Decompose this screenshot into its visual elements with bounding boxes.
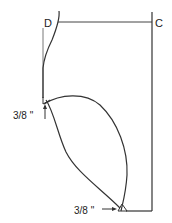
- measurement-bottom: 3/8 ": [74, 205, 95, 216]
- point-d-label: D: [44, 17, 52, 29]
- pattern-diagram: D C 3/8 " 3/8 ": [0, 0, 172, 223]
- measurement-upper-left: 3/8 ": [13, 110, 34, 121]
- point-c-label: C: [155, 17, 163, 29]
- armhole-inner-curve: [46, 100, 120, 208]
- arrow-up-icon: [43, 104, 47, 109]
- armhole-outer-curve: [44, 96, 127, 211]
- arrow-right-icon: [112, 207, 117, 211]
